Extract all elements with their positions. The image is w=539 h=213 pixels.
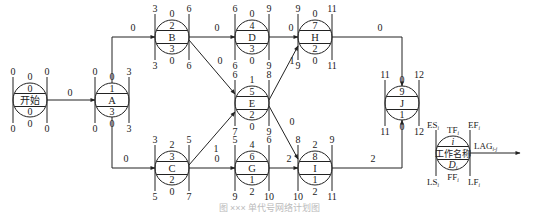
node-duration: 3 <box>170 43 175 54</box>
node-tf: 0 <box>28 71 33 82</box>
node-ef: 8 <box>267 69 272 80</box>
node-name: D <box>248 32 256 43</box>
legend-ef: EFi <box>468 120 481 131</box>
node-duration: 1 <box>313 174 318 185</box>
node-lf: 0 <box>45 123 50 134</box>
node-es: 8 <box>296 134 301 145</box>
node-code: 2 <box>170 20 175 31</box>
node-es: 0 <box>93 66 98 77</box>
node-ef: 11 <box>327 3 337 14</box>
node-ls: 0 <box>11 123 16 134</box>
node-ff: 0 <box>400 121 405 132</box>
node-duration: 1 <box>250 174 255 185</box>
node-code: 6 <box>250 151 255 162</box>
edge-E-I <box>269 106 298 159</box>
node-ff: 0 <box>28 118 33 129</box>
node-code: 7 <box>313 20 318 31</box>
node-duration: 2 <box>170 174 175 185</box>
edge-lag-label: 0 <box>215 22 220 33</box>
node-ls: 3 <box>153 60 158 71</box>
node-ff: 0 <box>250 55 255 66</box>
node-ef: 9 <box>330 134 335 145</box>
node-duration: 1 <box>400 109 405 120</box>
network-diagram: 0000010010202 0开始00000001A30030032B33063… <box>0 0 539 213</box>
node-D: 4D3609609 <box>233 3 272 71</box>
node-A: 1A3003003 <box>93 66 132 134</box>
node-lf: 6 <box>187 60 192 71</box>
node-name: A <box>108 95 116 106</box>
node-J: 9J11101211012 <box>380 69 424 137</box>
node-duration: 3 <box>110 106 115 117</box>
legend: i工作名称DiESiTFiEFiLSiFFiLFiLAGi-j <box>427 120 520 188</box>
node-tf: 0 <box>170 8 175 19</box>
node-H: 7H290119011 <box>296 3 337 71</box>
node-code: 1 <box>110 83 115 94</box>
node-code: 8 <box>313 151 318 162</box>
node-code: 4 <box>250 20 255 31</box>
node-name: J <box>400 98 404 109</box>
node-G: 6G15469210 <box>233 134 275 202</box>
network-diagram-canvas: 0000010010202 0开始00000001A30030032B33063… <box>0 0 539 213</box>
node-duration: 2 <box>250 109 255 120</box>
node-duration: 2 <box>313 43 318 54</box>
node-es: 5 <box>233 134 238 145</box>
node-code: 5 <box>250 86 255 97</box>
node-duration: 3 <box>250 43 255 54</box>
edge-lag-label: 0 <box>215 153 220 164</box>
node-tf: 0 <box>400 74 405 85</box>
node-C: 3C2325507 <box>153 134 192 202</box>
edge-H-J <box>332 37 402 86</box>
node-ff: 0 <box>110 118 115 129</box>
legend-ls: LSi <box>427 177 440 188</box>
node-tf: 2 <box>313 139 318 150</box>
node-ef: 12 <box>414 69 424 80</box>
edge-B-E <box>189 40 235 94</box>
node-ef: 6 <box>267 134 272 145</box>
node-start: 0开始0000000 <box>11 66 50 134</box>
node-code: 9 <box>400 86 405 97</box>
node-es: 3 <box>153 134 158 145</box>
legend-node: i工作名称DiESiTFiEFiLSiFFiLFiLAGi-j <box>427 120 498 188</box>
edge-lag-label: 0 <box>289 22 294 33</box>
node-B: 2B3306306 <box>153 3 192 71</box>
edge-lag-label: 2 <box>287 153 292 164</box>
edge-lag-label: 0 <box>124 153 129 164</box>
figure-caption: 图 ××× 单代号网络计划图 <box>0 201 539 213</box>
edge-I-J <box>332 120 402 168</box>
legend-ff: FFi <box>447 172 459 183</box>
node-name: B <box>168 32 175 43</box>
edge-lag-label: 0 <box>218 55 223 66</box>
node-ef: 6 <box>187 3 192 14</box>
node-duration: 0 <box>28 106 33 117</box>
node-ls: 11 <box>380 126 390 137</box>
node-tf: 4 <box>250 139 255 150</box>
edge-lag-label: 0 <box>290 116 295 127</box>
node-ef: 3 <box>127 66 132 77</box>
node-ls: 0 <box>93 123 98 134</box>
node-tf: 0 <box>313 8 318 19</box>
node-lf: 11 <box>327 60 337 71</box>
node-ff: 0 <box>313 55 318 66</box>
edge-lag-label: 0 <box>131 22 136 33</box>
node-I: 8I182910211 <box>293 134 337 202</box>
node-tf: 0 <box>110 71 115 82</box>
node-name: G <box>248 163 256 174</box>
node-es: 9 <box>296 3 301 14</box>
node-lf: 12 <box>414 126 424 137</box>
node-name: 开始 <box>20 94 40 106</box>
node-name: I <box>313 163 317 174</box>
node-es: 0 <box>11 66 16 77</box>
edge-A-B <box>112 37 155 83</box>
node-code: 0 <box>28 83 33 94</box>
node-ls: 9 <box>296 60 301 71</box>
edge-lag-label: 1 <box>290 55 295 66</box>
edge-A-C <box>112 117 155 168</box>
node-ff: 2 <box>250 186 255 197</box>
legend-tf: TFi <box>447 125 460 136</box>
node-code: 3 <box>170 151 175 162</box>
node-tf: 0 <box>250 8 255 19</box>
node-name: C <box>168 163 175 174</box>
legend-lag: LAGi-j <box>474 141 498 152</box>
node-name: H <box>311 32 319 43</box>
node-lf: 3 <box>127 123 132 134</box>
